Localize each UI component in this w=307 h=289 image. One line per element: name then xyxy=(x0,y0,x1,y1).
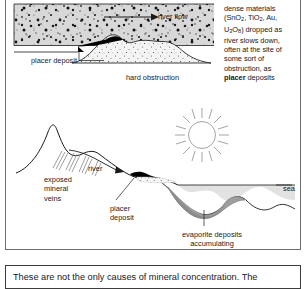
placer-deposit-bottom xyxy=(130,172,176,183)
subscript-3: 3 xyxy=(229,28,232,34)
note-box: These are not the only causes of mineral… xyxy=(5,265,301,289)
sun-icon xyxy=(175,108,229,162)
label-hard-obstruction: hard obstruction xyxy=(126,74,179,83)
caption-line-4: river slows down, xyxy=(224,36,280,45)
label-river: river xyxy=(88,165,102,174)
label-river-flow: river flow xyxy=(158,13,188,22)
caption-line-1: dense materials xyxy=(224,4,275,13)
subscript-2b: 2 xyxy=(259,16,262,22)
caption-line-7: obstruction, as xyxy=(224,64,271,73)
label-placer-deposit-bottom: placer deposit xyxy=(110,204,134,223)
note-text: These are not the only causes of mineral… xyxy=(13,271,296,283)
bottom-diagram-landscape xyxy=(6,88,302,248)
top-diagram-caption: dense materials (SnO2, TiO2, Au, U3O8) d… xyxy=(224,4,304,82)
caption-bold-placer: placer xyxy=(224,73,245,82)
caption-tail: deposits xyxy=(245,73,274,82)
subscript-8: 8 xyxy=(238,28,241,34)
subscript-2a: 2 xyxy=(241,16,244,22)
label-evaporite-deposits: evaporite deposits accumulating xyxy=(182,230,242,249)
label-exposed-mineral-veins: exposed mineral veins xyxy=(44,175,72,203)
caption-line-5: often at the site of xyxy=(224,45,282,54)
figure-panel: river flow placer deposit hard obstructi… xyxy=(5,0,301,250)
caption-line-6: some sort of xyxy=(224,54,264,63)
placer-deposit-leader-line-bottom xyxy=(116,178,134,200)
label-placer-deposit-top: placer deposit xyxy=(31,57,77,66)
bottom-diagram-svg xyxy=(6,88,302,248)
label-sea: sea xyxy=(283,185,295,194)
land-profile xyxy=(16,125,178,185)
